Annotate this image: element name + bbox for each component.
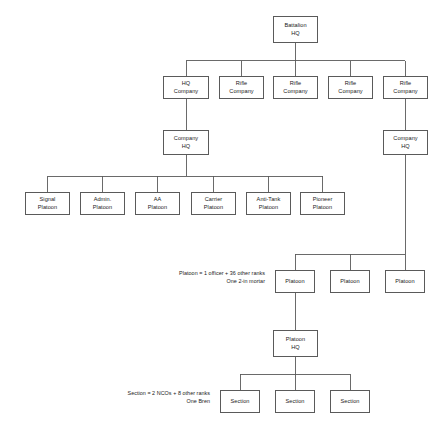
node-label-line2: Company <box>338 88 362 95</box>
node-label-line2: HQ <box>182 143 191 150</box>
org-chart: Battalion HQ HQ Company Rifle Company Ri… <box>0 0 448 438</box>
node-battalion-hq[interactable]: Battalion HQ <box>273 16 318 43</box>
node-label-line2: Company <box>283 88 307 95</box>
node-pioneer-platoon[interactable]: Pioneer Platoon <box>300 192 345 215</box>
node-label-line2: Company <box>174 88 198 95</box>
node-label-line1: Anti-Tank <box>257 196 281 203</box>
connector-lines <box>0 0 448 438</box>
node-label-line2: Company <box>229 88 253 95</box>
node-hq-company[interactable]: HQ Company <box>163 76 209 99</box>
node-label-line1: AA <box>154 196 162 203</box>
node-company-hq-right[interactable]: Company HQ <box>383 130 428 155</box>
node-admin-platoon[interactable]: Admin. Platoon <box>80 192 125 215</box>
node-platoon-hq[interactable]: Platoon HQ <box>273 330 318 357</box>
node-label-line1: Platoon <box>340 278 359 285</box>
node-label-line2: Platoon <box>259 204 278 211</box>
node-signal-platoon[interactable]: Signal Platoon <box>25 192 70 215</box>
node-section-1[interactable]: Section <box>220 390 260 413</box>
node-label-line2: Platoon <box>93 204 112 211</box>
node-label-line1: Section <box>285 398 304 405</box>
section-strength-note: Section = 2 NCOs + 8 other ranks One Bre… <box>70 390 210 405</box>
node-label-line2: Platoon <box>204 204 223 211</box>
node-label-line1: Platoon <box>285 278 304 285</box>
node-aa-platoon[interactable]: AA Platoon <box>135 192 180 215</box>
node-label-line2: HQ <box>291 30 300 37</box>
node-label-line1: Rifle <box>400 80 411 87</box>
node-label-line1: Section <box>230 398 249 405</box>
node-label-line2: HQ <box>291 344 300 351</box>
node-company-hq-left[interactable]: Company HQ <box>163 130 209 155</box>
node-label-line1: Section <box>340 398 359 405</box>
node-antitank-platoon[interactable]: Anti-Tank Platoon <box>246 192 291 215</box>
node-platoon-2[interactable]: Platoon <box>330 270 370 293</box>
node-label-line2: Platoon <box>313 204 332 211</box>
node-carrier-platoon[interactable]: Carrier Platoon <box>191 192 236 215</box>
node-label-line1: HQ <box>182 80 191 87</box>
platoon-note-line1: Platoon = 1 officer + 36 other ranks <box>125 270 265 278</box>
node-rifle-company-2[interactable]: Rifle Company <box>273 76 318 99</box>
node-platoon-3[interactable]: Platoon <box>385 270 425 293</box>
node-label-line2: Platoon <box>38 204 57 211</box>
node-label-line1: Company <box>174 135 198 142</box>
node-label-line2: Company <box>393 88 417 95</box>
platoon-note-line2: One 2-in mortar <box>125 278 265 286</box>
node-label-line2: Platoon <box>148 204 167 211</box>
node-rifle-company-3[interactable]: Rifle Company <box>328 76 373 99</box>
node-rifle-company-1[interactable]: Rifle Company <box>219 76 264 99</box>
node-label-line1: Platoon <box>395 278 414 285</box>
node-label-line1: Carrier <box>205 196 222 203</box>
node-label-line1: Battalion <box>284 22 306 29</box>
node-label-line1: Rifle <box>290 80 301 87</box>
node-rifle-company-4[interactable]: Rifle Company <box>383 76 428 99</box>
node-platoon-1[interactable]: Platoon <box>275 270 315 293</box>
section-note-line2: One Bren <box>70 398 210 406</box>
node-label-line1: Platoon <box>286 336 305 343</box>
node-label-line1: Rifle <box>236 80 247 87</box>
node-label-line1: Rifle <box>345 80 356 87</box>
node-label-line1: Admin. <box>94 196 112 203</box>
node-label-line1: Signal <box>40 196 56 203</box>
platoon-strength-note: Platoon = 1 officer + 36 other ranks One… <box>125 270 265 285</box>
node-section-2[interactable]: Section <box>275 390 315 413</box>
section-note-line1: Section = 2 NCOs + 8 other ranks <box>70 390 210 398</box>
node-label-line2: HQ <box>401 143 410 150</box>
node-section-3[interactable]: Section <box>330 390 370 413</box>
node-label-line1: Company <box>393 135 417 142</box>
node-label-line1: Pioneer <box>313 196 333 203</box>
